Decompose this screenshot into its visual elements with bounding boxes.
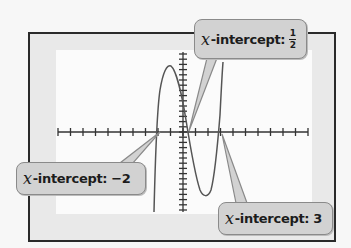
fraction-value: 1 2 <box>289 29 296 50</box>
x-intercept-half-callout: x -intercept: 1 2 <box>194 19 307 59</box>
y-axis <box>179 52 187 212</box>
callout-value: 3 <box>313 211 322 226</box>
function-curve <box>154 62 223 212</box>
callout-label: -intercept: <box>211 32 286 47</box>
x-variable: x <box>201 30 210 49</box>
x-intercept-3-callout: x -intercept: 3 <box>218 202 333 235</box>
x-variable: x <box>225 209 234 228</box>
callout-label: -intercept: <box>235 211 310 226</box>
fraction-denominator: 2 <box>290 41 296 50</box>
callout-label: -intercept: <box>33 171 108 186</box>
x-intercept-neg2-callout: x -intercept: −2 <box>16 162 146 195</box>
callout-value: −2 <box>111 171 130 186</box>
x-variable: x <box>23 169 32 188</box>
fraction-numerator: 1 <box>290 29 296 38</box>
